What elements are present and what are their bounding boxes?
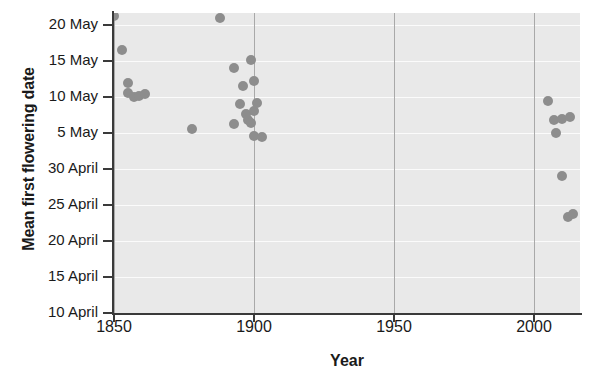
y-tick-label: 5 May [57, 124, 98, 139]
gridline [114, 25, 580, 26]
data-point [565, 112, 575, 122]
x-axis-title: Year [114, 352, 580, 370]
y-tick-mark [103, 276, 114, 278]
data-point [252, 98, 262, 108]
y-tick-label: 15 April [48, 268, 98, 283]
vertical-gridline [114, 13, 115, 313]
data-point [238, 81, 248, 91]
data-point [557, 171, 567, 181]
x-tick-label: 1900 [214, 318, 294, 336]
data-point [249, 76, 259, 86]
data-point [568, 209, 578, 219]
vertical-gridline [394, 13, 395, 313]
data-point [249, 106, 259, 116]
data-point [257, 132, 267, 142]
gridline [114, 61, 580, 62]
x-tick-label: 1950 [354, 318, 434, 336]
data-point [140, 89, 150, 99]
y-axis-title: Mean first flowering date [20, 34, 38, 284]
gridline [114, 241, 580, 242]
y-tick-mark [103, 168, 114, 170]
data-point [246, 55, 256, 65]
data-point [114, 13, 119, 21]
y-tick-label: 10 April [48, 304, 98, 319]
y-tick-mark [103, 240, 114, 242]
gridline [114, 97, 580, 98]
data-point [235, 99, 245, 109]
data-point [123, 78, 133, 88]
y-tick-label: 10 May [49, 88, 98, 103]
y-tick-mark [103, 60, 114, 62]
y-tick-label: 25 April [48, 196, 98, 211]
y-tick-mark [103, 24, 114, 26]
data-point [551, 128, 561, 138]
y-tick-label: 20 May [49, 16, 98, 31]
y-tick-label: 15 May [49, 52, 98, 67]
gridline [114, 133, 580, 134]
y-axis-line [112, 11, 114, 315]
gridline [114, 277, 580, 278]
scatter-chart: Mean first flowering date Year 20 May15 … [0, 0, 595, 383]
vertical-gridline [534, 13, 535, 313]
x-tick-label: 1850 [74, 318, 154, 336]
y-tick-label: 20 April [48, 232, 98, 247]
y-tick-mark [103, 96, 114, 98]
y-tick-mark [103, 132, 114, 134]
y-tick-mark [103, 204, 114, 206]
data-point [229, 63, 239, 73]
plot-area [114, 13, 580, 313]
gridline [114, 169, 580, 170]
data-point [543, 96, 553, 106]
data-point [117, 45, 127, 55]
data-point [229, 119, 239, 129]
x-axis-line [112, 313, 582, 315]
gridline [114, 205, 580, 206]
y-tick-label: 30 April [48, 160, 98, 175]
data-point [215, 13, 225, 23]
x-tick-label: 2000 [494, 318, 574, 336]
